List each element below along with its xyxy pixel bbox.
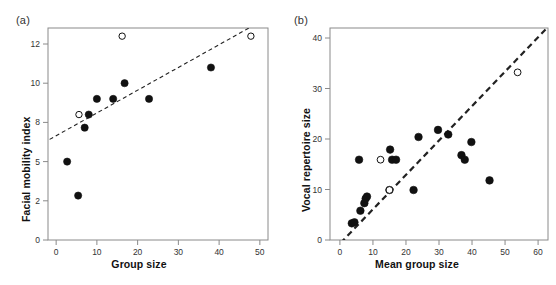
figure-container: (a) 0102030405002581012 Group size Facia… bbox=[0, 0, 556, 285]
svg-text:60: 60 bbox=[533, 247, 543, 257]
panel-a-xaxis-label: Group size bbox=[0, 258, 278, 270]
svg-text:40: 40 bbox=[214, 247, 224, 257]
panel-b-xaxis-label: Mean group size bbox=[278, 258, 556, 270]
svg-text:0: 0 bbox=[54, 247, 59, 257]
svg-text:20: 20 bbox=[401, 247, 411, 257]
svg-text:30: 30 bbox=[434, 247, 444, 257]
svg-text:12: 12 bbox=[31, 39, 41, 49]
panel-a-yaxis-label: Facial mobility index bbox=[20, 117, 32, 222]
svg-text:20: 20 bbox=[313, 134, 323, 144]
svg-text:30: 30 bbox=[313, 84, 323, 94]
svg-text:30: 30 bbox=[174, 247, 184, 257]
panel-b-plot: 0102030405060010203040 bbox=[278, 0, 556, 285]
svg-text:50: 50 bbox=[255, 247, 265, 257]
svg-text:0: 0 bbox=[317, 235, 322, 245]
panel-a: (a) 0102030405002581012 Group size Facia… bbox=[0, 0, 278, 285]
svg-text:10: 10 bbox=[92, 247, 102, 257]
svg-text:40: 40 bbox=[467, 247, 477, 257]
svg-text:2: 2 bbox=[35, 196, 40, 206]
svg-text:40: 40 bbox=[313, 33, 323, 43]
svg-text:10: 10 bbox=[31, 78, 41, 88]
svg-text:10: 10 bbox=[368, 247, 378, 257]
svg-text:8: 8 bbox=[35, 117, 40, 127]
panel-b-yaxis-label: Vocal repertoire size bbox=[300, 108, 312, 212]
svg-text:50: 50 bbox=[500, 247, 510, 257]
svg-text:20: 20 bbox=[133, 247, 143, 257]
svg-text:10: 10 bbox=[313, 185, 323, 195]
panel-a-plot: 0102030405002581012 bbox=[0, 0, 278, 285]
svg-text:5: 5 bbox=[35, 157, 40, 167]
svg-text:0: 0 bbox=[338, 247, 343, 257]
svg-text:0: 0 bbox=[35, 235, 40, 245]
panel-b: (b) 0102030405060010203040 Mean group si… bbox=[278, 0, 556, 285]
